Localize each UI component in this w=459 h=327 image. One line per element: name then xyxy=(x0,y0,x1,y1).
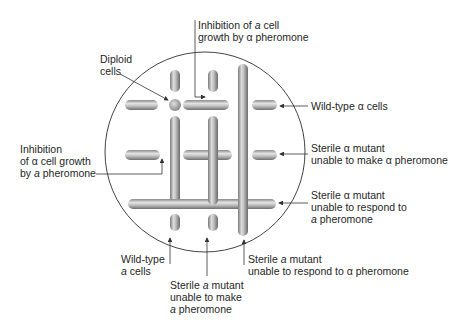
horizontal-streaks xyxy=(125,100,277,209)
streak-row2-mid xyxy=(183,150,232,160)
diploid-colony xyxy=(169,99,181,111)
label-sterile-alpha-respond: Sterile α mutant unable to respond to a … xyxy=(311,189,407,225)
streak-col2-mid xyxy=(208,116,218,205)
streak-row1-mid xyxy=(183,100,229,110)
streak-row2-right xyxy=(252,150,277,160)
streak-row2-left xyxy=(125,150,160,160)
streak-col2-top xyxy=(208,70,218,92)
streak-col2-bottom xyxy=(208,214,218,231)
label-wildtype-alpha-cells: Wild-type α cells xyxy=(311,100,388,112)
streak-row3-long xyxy=(128,199,276,209)
label-wildtype-a-cells: Wild-type a cells xyxy=(121,253,165,277)
streak-col1-bottom xyxy=(170,214,180,231)
streak-col3-long xyxy=(238,64,248,236)
label-inhibition-alpha-growth: Inhibition of α cell growth by a pheromo… xyxy=(20,143,96,179)
streak-row1-right xyxy=(252,100,277,110)
streak-col1-top xyxy=(170,70,180,92)
label-inhibition-a-growth: Inhibition of a cell growth by α pheromo… xyxy=(198,19,309,43)
streak-row1-left xyxy=(125,100,158,110)
label-sterile-alpha-make: Sterile α mutant unable to make α pherom… xyxy=(311,142,448,166)
label-diploid-cells: Diploid cells xyxy=(100,53,132,77)
label-sterile-a-respond: Sterile a mutant unable to respond to α … xyxy=(248,253,409,277)
streak-col1-mid xyxy=(170,116,180,205)
label-sterile-a-make: Sterile a mutant unable to make a pherom… xyxy=(170,279,244,315)
